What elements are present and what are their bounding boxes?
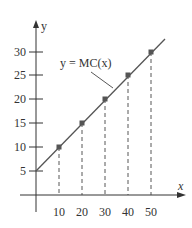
y-tick-label: 5 (20, 164, 26, 178)
y-tick-label: 20 (14, 92, 26, 106)
chart: y x 30 25 20 15 10 5 10 20 30 40 50 (0, 0, 192, 228)
x-ticks: 10 20 30 40 50 (53, 205, 157, 219)
y-tick-label: 30 (14, 45, 26, 59)
drop-lines (59, 52, 151, 195)
x-tick-label: 20 (76, 205, 88, 219)
y-tick-label: 10 (14, 140, 26, 154)
x-tick-label: 30 (99, 205, 111, 219)
curve-label-leader (91, 72, 113, 88)
y-axis-label: y (41, 19, 47, 33)
curve-label: y = MC(x) (60, 56, 111, 70)
y-tick-label: 25 (14, 68, 26, 82)
x-tick-label: 50 (145, 205, 157, 219)
y-ticks: 30 25 20 15 10 5 (14, 45, 43, 178)
x-tick-label: 10 (53, 205, 65, 219)
y-axis-arrow-icon (33, 20, 39, 28)
x-tick-label: 40 (122, 205, 134, 219)
x-axis-label: x (177, 179, 184, 193)
y-tick-label: 15 (14, 116, 26, 130)
